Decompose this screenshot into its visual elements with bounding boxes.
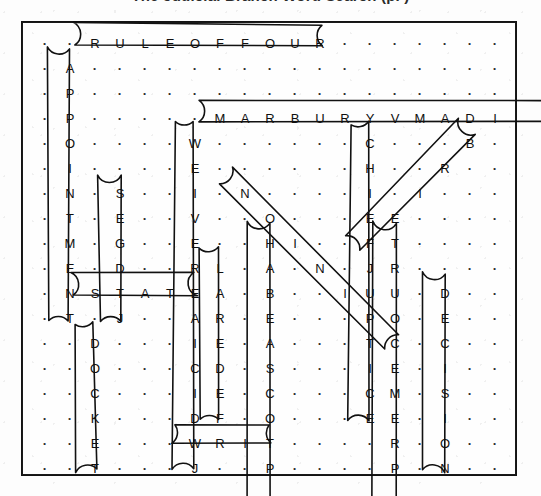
grid-filler-dot[interactable]: ·	[33, 82, 57, 106]
grid-filler-dot[interactable]: ·	[458, 282, 482, 306]
grid-filler-dot[interactable]: ·	[308, 457, 332, 481]
grid-filler-dot[interactable]: ·	[458, 307, 482, 331]
grid-filler-dot[interactable]: ·	[483, 82, 507, 106]
grid-filler-dot[interactable]: ·	[333, 32, 357, 56]
grid-filler-dot[interactable]: ·	[383, 157, 407, 181]
grid-letter-cell[interactable]: K	[83, 407, 107, 431]
grid-filler-dot[interactable]: ·	[283, 457, 307, 481]
grid-letter-cell[interactable]: I	[283, 232, 307, 256]
grid-letter-cell[interactable]: E	[183, 282, 207, 306]
grid-filler-dot[interactable]: ·	[308, 232, 332, 256]
grid-filler-dot[interactable]: ·	[158, 132, 182, 156]
grid-letter-cell[interactable]: I	[358, 182, 382, 206]
grid-filler-dot[interactable]: ·	[458, 232, 482, 256]
grid-letter-cell[interactable]: N	[308, 257, 332, 281]
grid-filler-dot[interactable]: ·	[58, 407, 82, 431]
grid-filler-dot[interactable]: ·	[408, 82, 432, 106]
grid-filler-dot[interactable]: ·	[458, 57, 482, 81]
grid-letter-cell[interactable]: O	[183, 32, 207, 56]
grid-filler-dot[interactable]: ·	[58, 357, 82, 381]
grid-filler-dot[interactable]: ·	[133, 432, 157, 456]
grid-filler-dot[interactable]: ·	[233, 307, 257, 331]
grid-filler-dot[interactable]: ·	[158, 107, 182, 131]
grid-letter-cell[interactable]: E	[183, 232, 207, 256]
grid-filler-dot[interactable]: ·	[458, 207, 482, 231]
grid-filler-dot[interactable]: ·	[358, 432, 382, 456]
grid-filler-dot[interactable]: ·	[408, 307, 432, 331]
grid-filler-dot[interactable]: ·	[383, 132, 407, 156]
grid-letter-cell[interactable]: D	[183, 407, 207, 431]
grid-filler-dot[interactable]: ·	[333, 57, 357, 81]
grid-filler-dot[interactable]: ·	[383, 32, 407, 56]
grid-filler-dot[interactable]: ·	[208, 232, 232, 256]
grid-filler-dot[interactable]: ·	[33, 382, 57, 406]
grid-filler-dot[interactable]: ·	[108, 157, 132, 181]
grid-filler-dot[interactable]: ·	[208, 132, 232, 156]
grid-filler-dot[interactable]: ·	[208, 157, 232, 181]
grid-filler-dot[interactable]: ·	[483, 457, 507, 481]
grid-letter-cell[interactable]: W	[183, 432, 207, 456]
grid-letter-cell[interactable]: F	[208, 407, 232, 431]
grid-filler-dot[interactable]: ·	[158, 457, 182, 481]
grid-filler-dot[interactable]: ·	[133, 257, 157, 281]
grid-letter-cell[interactable]: E	[183, 157, 207, 181]
grid-filler-dot[interactable]: ·	[133, 157, 157, 181]
grid-filler-dot[interactable]: ·	[258, 182, 282, 206]
grid-filler-dot[interactable]: ·	[183, 82, 207, 106]
grid-letter-cell[interactable]: C	[358, 132, 382, 156]
grid-letter-cell[interactable]: A	[233, 107, 257, 131]
grid-filler-dot[interactable]: ·	[33, 407, 57, 431]
grid-filler-dot[interactable]: ·	[208, 457, 232, 481]
grid-filler-dot[interactable]: ·	[333, 182, 357, 206]
grid-filler-dot[interactable]: ·	[283, 182, 307, 206]
grid-letter-cell[interactable]: J	[358, 257, 382, 281]
grid-letter-cell[interactable]: R	[433, 157, 457, 181]
grid-filler-dot[interactable]: ·	[108, 432, 132, 456]
grid-filler-dot[interactable]: ·	[483, 232, 507, 256]
grid-filler-dot[interactable]: ·	[333, 232, 357, 256]
grid-letter-cell[interactable]: E	[433, 307, 457, 331]
grid-filler-dot[interactable]: ·	[458, 457, 482, 481]
grid-filler-dot[interactable]: ·	[58, 457, 82, 481]
grid-letter-cell[interactable]: I	[333, 282, 357, 306]
grid-filler-dot[interactable]: ·	[33, 107, 57, 131]
grid-letter-cell[interactable]: R	[308, 32, 332, 56]
grid-filler-dot[interactable]: ·	[308, 382, 332, 406]
grid-filler-dot[interactable]: ·	[258, 82, 282, 106]
grid-filler-dot[interactable]: ·	[483, 407, 507, 431]
grid-filler-dot[interactable]: ·	[158, 57, 182, 81]
grid-letter-cell[interactable]: T	[258, 432, 282, 456]
grid-filler-dot[interactable]: ·	[233, 332, 257, 356]
grid-letter-cell[interactable]: I	[233, 432, 257, 456]
grid-filler-dot[interactable]: ·	[408, 457, 432, 481]
grid-letter-cell[interactable]: E	[383, 407, 407, 431]
grid-letter-cell[interactable]: M	[408, 107, 432, 131]
grid-letter-cell[interactable]: P	[358, 307, 382, 331]
grid-filler-dot[interactable]: ·	[158, 257, 182, 281]
grid-filler-dot[interactable]: ·	[108, 457, 132, 481]
grid-filler-dot[interactable]: ·	[258, 132, 282, 156]
grid-letter-cell[interactable]: U	[283, 32, 307, 56]
grid-filler-dot[interactable]: ·	[308, 407, 332, 431]
grid-filler-dot[interactable]: ·	[58, 432, 82, 456]
grid-filler-dot[interactable]: ·	[408, 157, 432, 181]
grid-letter-cell[interactable]: C	[258, 382, 282, 406]
grid-filler-dot[interactable]: ·	[158, 382, 182, 406]
grid-filler-dot[interactable]: ·	[133, 107, 157, 131]
grid-letter-cell[interactable]: R	[208, 307, 232, 331]
grid-filler-dot[interactable]: ·	[233, 82, 257, 106]
grid-filler-dot[interactable]: ·	[33, 157, 57, 181]
grid-filler-dot[interactable]: ·	[408, 232, 432, 256]
grid-filler-dot[interactable]: ·	[258, 157, 282, 181]
grid-letter-cell[interactable]: H	[358, 157, 382, 181]
grid-filler-dot[interactable]: ·	[83, 182, 107, 206]
grid-filler-dot[interactable]: ·	[333, 432, 357, 456]
grid-letter-cell[interactable]: F	[233, 32, 257, 56]
grid-filler-dot[interactable]: ·	[483, 182, 507, 206]
grid-filler-dot[interactable]: ·	[283, 257, 307, 281]
grid-filler-dot[interactable]: ·	[33, 282, 57, 306]
grid-filler-dot[interactable]: ·	[408, 57, 432, 81]
grid-filler-dot[interactable]: ·	[308, 182, 332, 206]
grid-filler-dot[interactable]: ·	[483, 332, 507, 356]
grid-filler-dot[interactable]: ·	[333, 382, 357, 406]
